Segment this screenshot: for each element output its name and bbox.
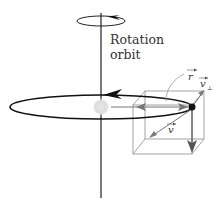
- v-perp-label: v ⊥: [199, 77, 213, 92]
- down-vector-arrow: [187, 110, 197, 153]
- svg-text:v: v: [168, 124, 174, 135]
- orbiting-body: [189, 104, 196, 111]
- r-label-leader: [166, 74, 184, 101]
- orbit-diagram: Rotation orbit r: [0, 0, 219, 208]
- central-body: [92, 98, 110, 116]
- orbit-arrow-icon: [103, 89, 122, 99]
- r-vector-label: r: [187, 69, 197, 83]
- rotation-label-line1: Rotation: [110, 32, 164, 47]
- svg-text:v: v: [200, 78, 206, 89]
- svg-text:r: r: [188, 71, 194, 82]
- rotation-label-line2: orbit: [110, 47, 141, 62]
- r-vector-arrow: [111, 103, 188, 111]
- svg-text:⊥: ⊥: [207, 84, 213, 91]
- v-label: v: [167, 123, 176, 136]
